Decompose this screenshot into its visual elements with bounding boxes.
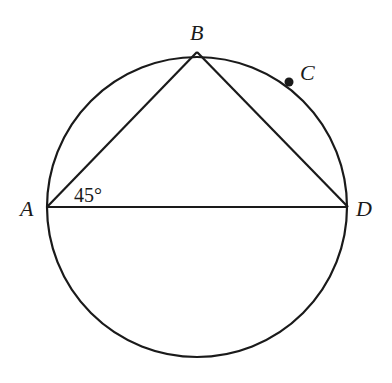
angle-label-a: 45° — [74, 184, 102, 206]
label-b: B — [190, 20, 203, 45]
geometry-diagram: B C A D 45° — [0, 0, 392, 383]
label-d: D — [355, 196, 372, 221]
point-c-dot — [285, 78, 294, 87]
label-a: A — [18, 196, 34, 221]
label-c: C — [300, 60, 315, 85]
